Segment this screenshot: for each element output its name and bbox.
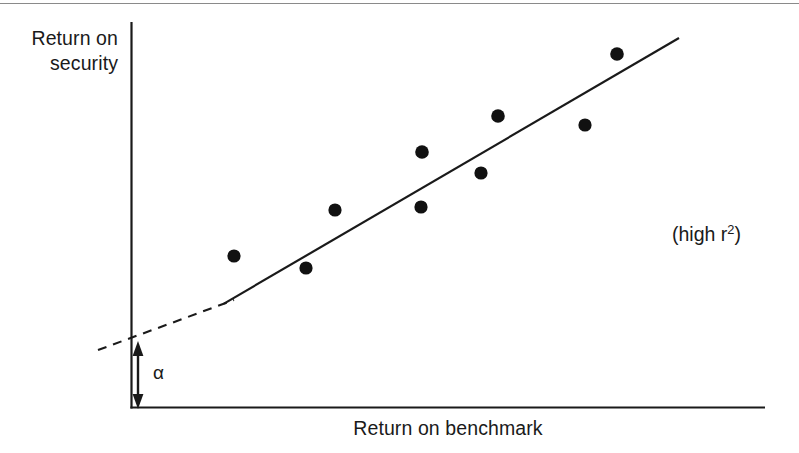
data-point-group <box>227 47 623 274</box>
y-axis-label-line2: security <box>50 52 118 74</box>
r-squared-annotation: (high r2) <box>672 222 741 246</box>
alpha-arrow <box>133 341 144 409</box>
data-point <box>227 249 240 262</box>
alpha-arrow-head-top <box>133 341 144 356</box>
y-axis-label-line1: Return on <box>31 27 118 49</box>
alpha-label: α <box>153 362 164 384</box>
axes-group <box>130 22 765 409</box>
r-squared-prefix: (high r <box>672 223 727 245</box>
data-point <box>474 166 487 179</box>
regression-line <box>224 38 679 304</box>
data-point <box>491 109 505 123</box>
data-point <box>415 145 429 159</box>
x-axis-label: Return on benchmark <box>131 416 765 441</box>
data-point <box>414 200 427 213</box>
data-point <box>299 261 312 274</box>
y-axis-label: Return onsecurity <box>18 26 118 76</box>
data-point <box>328 203 341 216</box>
figure-container: Return onsecurity Return on benchmark (h… <box>0 0 799 453</box>
data-point <box>578 118 591 131</box>
r-squared-suffix: ) <box>734 223 741 245</box>
data-point <box>610 47 624 61</box>
regression-line-extension <box>98 300 234 350</box>
